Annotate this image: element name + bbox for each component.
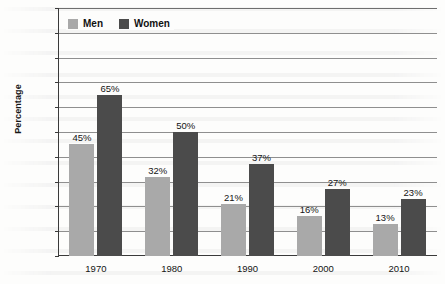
bar-groups: 45%65%32%50%21%37%16%27%13%23% xyxy=(58,8,437,256)
x-axis-tick-label: 2000 xyxy=(285,258,361,278)
legend-swatch-men-icon xyxy=(68,19,78,29)
bar-group: 32%50% xyxy=(134,8,210,256)
legend-label-women: Women xyxy=(134,18,170,29)
bar-value-label: 65% xyxy=(100,83,119,94)
bar-value-label: 13% xyxy=(376,212,395,223)
bar-women-2000[interactable]: 27% xyxy=(325,189,350,256)
bar-value-label: 32% xyxy=(148,165,167,176)
x-axis-tick-labels: 19701980199020002010 xyxy=(58,258,437,278)
bar-women-2010[interactable]: 23% xyxy=(401,199,426,256)
bar-group: 45%65% xyxy=(58,8,134,256)
legend-swatch-women-icon xyxy=(119,19,129,29)
legend-item-men[interactable]: Men xyxy=(68,18,103,29)
bar-men-2010[interactable]: 13% xyxy=(373,224,398,256)
bar-group: 13%23% xyxy=(361,8,437,256)
bar-group: 16%27% xyxy=(285,8,361,256)
legend-item-women[interactable]: Women xyxy=(119,18,170,29)
bar-men-2000[interactable]: 16% xyxy=(297,216,322,256)
y-axis-tick-mark xyxy=(55,256,59,257)
legend-label-men: Men xyxy=(83,18,103,29)
bar-value-label: 21% xyxy=(224,192,243,203)
bar-value-label: 16% xyxy=(300,204,319,215)
bar-value-label: 50% xyxy=(176,120,195,131)
bar-value-label: 45% xyxy=(72,132,91,143)
x-axis-tick-label: 1980 xyxy=(134,258,210,278)
grouped-bar-chart: Percentage 100%90%80%70%60%50%40%30%20%1… xyxy=(0,0,445,284)
bar-women-1980[interactable]: 50% xyxy=(173,132,198,256)
bar-value-label: 23% xyxy=(404,187,423,198)
bar-men-1990[interactable]: 21% xyxy=(221,204,246,256)
chart-legend: Men Women xyxy=(66,17,174,30)
bar-women-1970[interactable]: 65% xyxy=(97,95,122,256)
bar-men-1980[interactable]: 32% xyxy=(145,177,170,256)
y-axis-title: Percentage xyxy=(13,49,23,169)
bar-women-1990[interactable]: 37% xyxy=(249,164,274,256)
x-axis-tick-label: 1970 xyxy=(58,258,134,278)
bar-value-label: 37% xyxy=(252,152,271,163)
x-axis-tick-label: 1990 xyxy=(210,258,286,278)
bar-men-1970[interactable]: 45% xyxy=(69,144,94,256)
bar-value-label: 27% xyxy=(328,177,347,188)
bar-group: 21%37% xyxy=(210,8,286,256)
x-axis-tick-label: 2010 xyxy=(361,258,437,278)
